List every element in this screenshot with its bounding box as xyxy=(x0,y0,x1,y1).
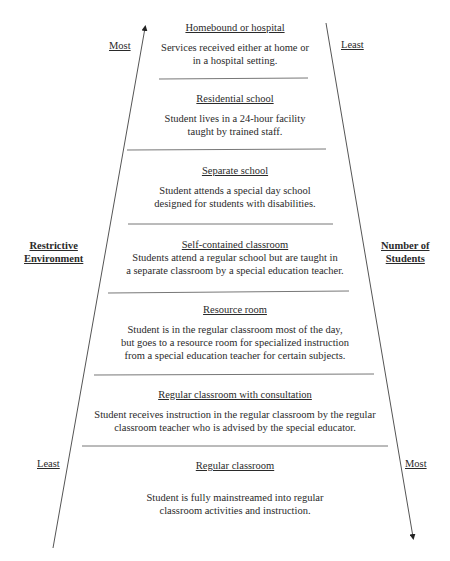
left-axis-title: Restrictive Environment xyxy=(24,239,83,265)
level-homebound: Homebound or hospital Services received … xyxy=(135,21,335,67)
level-resource-room: Resource room Student is in the regular … xyxy=(100,303,370,362)
divider-4 xyxy=(108,291,349,293)
level-self-contained: Self-contained classroom Students attend… xyxy=(110,238,360,277)
level-regular-consultation: Regular classroom with consultation Stud… xyxy=(90,388,380,434)
level-residential: Residential school Student lives in a 24… xyxy=(130,92,340,138)
divider-2 xyxy=(127,149,326,150)
level-regular-classroom: Regular classroom Student is fully mains… xyxy=(90,459,380,517)
right-axis-title: Number of Students xyxy=(381,239,430,265)
divider-1 xyxy=(159,78,308,79)
right-bottom-label: Most xyxy=(405,458,427,469)
level-separate-school: Separate school Student attends a specia… xyxy=(120,164,350,210)
right-top-label: Least xyxy=(341,39,364,50)
left-bottom-label: Least xyxy=(37,458,60,469)
left-top-label: Most xyxy=(109,40,131,51)
divider-5 xyxy=(94,374,374,375)
